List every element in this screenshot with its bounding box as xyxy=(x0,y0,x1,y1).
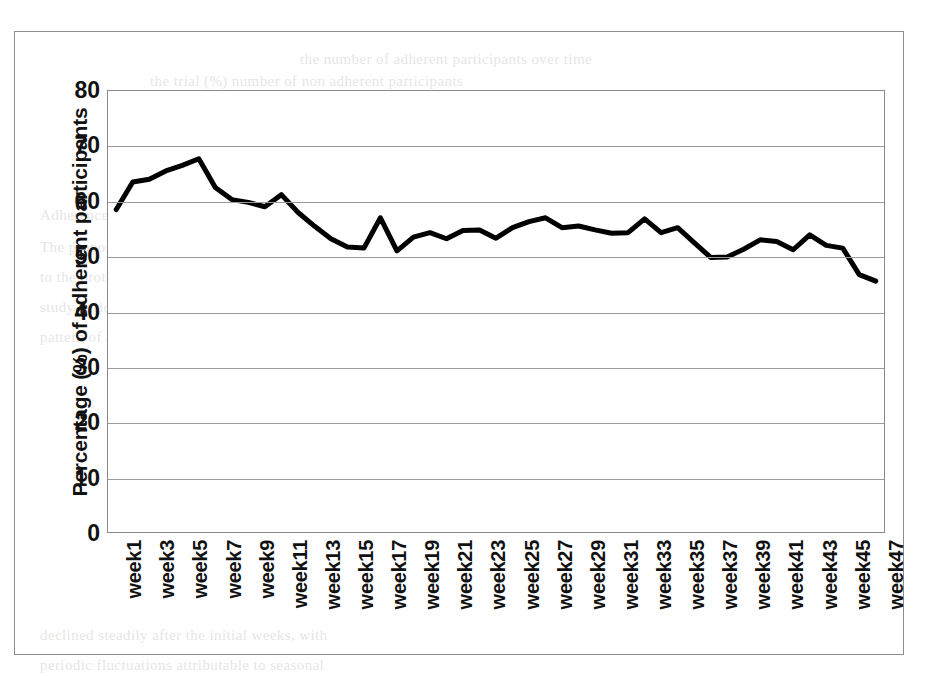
y-tick-label: 50 xyxy=(54,243,100,270)
x-tick-label: week15 xyxy=(355,540,378,609)
gridline xyxy=(108,257,884,258)
plot-area xyxy=(107,90,885,533)
x-tick-label: week5 xyxy=(189,540,212,599)
x-tick-label: week43 xyxy=(819,540,842,609)
x-tick-label: week11 xyxy=(289,540,312,608)
adherence-line-chart: Percentage (%) of adherent participants … xyxy=(0,0,932,676)
x-tick-label: week45 xyxy=(852,540,875,609)
x-tick-label: week29 xyxy=(587,540,610,609)
x-tick-label: week35 xyxy=(686,540,709,609)
x-tick-label: week39 xyxy=(752,540,775,609)
x-tick-label: week27 xyxy=(554,540,577,609)
gridline xyxy=(108,479,884,480)
x-tick-label: week21 xyxy=(454,540,477,609)
x-tick-label: week13 xyxy=(322,540,345,609)
x-tick-label: week1 xyxy=(123,540,146,599)
y-tick-label: 60 xyxy=(54,187,100,214)
x-tick-label: week47 xyxy=(885,540,908,609)
x-tick-label: week31 xyxy=(620,540,643,609)
y-tick-label: 70 xyxy=(54,132,100,159)
y-tick-label: 10 xyxy=(54,464,100,491)
x-tick-label: week25 xyxy=(521,540,544,609)
gridline xyxy=(108,146,884,147)
gridline xyxy=(108,423,884,424)
y-tick-label: 0 xyxy=(54,520,100,547)
x-tick-label: week19 xyxy=(421,540,444,609)
x-tick-label: week17 xyxy=(388,540,411,609)
x-tick-label: week23 xyxy=(487,540,510,609)
x-tick-label: week3 xyxy=(156,540,179,599)
x-tick-label: week33 xyxy=(653,540,676,609)
y-tick-label: 80 xyxy=(54,77,100,104)
x-tick-label: week41 xyxy=(785,540,808,609)
x-tick-label: week7 xyxy=(223,540,246,599)
y-axis-tick-labels: 80706050403020100 xyxy=(44,0,100,676)
x-tick-label: week37 xyxy=(719,540,742,609)
x-tick-label: week9 xyxy=(256,540,279,599)
y-tick-label: 30 xyxy=(54,353,100,380)
gridline xyxy=(108,313,884,314)
gridline xyxy=(108,368,884,369)
gridline xyxy=(108,202,884,203)
y-tick-label: 20 xyxy=(54,409,100,436)
series-line xyxy=(108,91,884,532)
x-axis-tick-labels: week1week3week5week7week9week11week13wee… xyxy=(107,540,885,660)
y-tick-label: 40 xyxy=(54,298,100,325)
